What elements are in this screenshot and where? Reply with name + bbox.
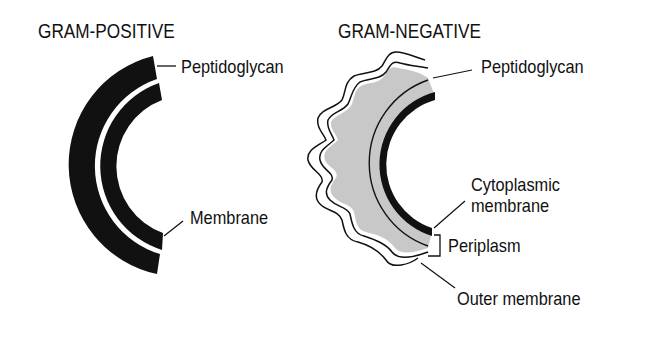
gram-negative-outer-membrane-leader bbox=[421, 263, 455, 288]
gram-positive-membrane-leader bbox=[164, 221, 183, 236]
periplasm-label: Periplasm bbox=[448, 236, 521, 256]
outer-membrane-label: Outer membrane bbox=[457, 289, 581, 309]
cytoplasmic-membrane-label-line1: Cytoplasmic bbox=[471, 175, 560, 195]
gram-negative-peptidoglycan-leader bbox=[433, 70, 472, 78]
gram-negative-title: GRAM-NEGATIVE bbox=[338, 20, 481, 43]
cytoplasmic-membrane-label-line2: membrane bbox=[471, 196, 549, 216]
gram-positive-membrane-label: Membrane bbox=[190, 208, 268, 228]
gram-negative-peptidoglycan-label: Peptidoglycan bbox=[481, 57, 584, 77]
gram-positive-diagram bbox=[69, 56, 183, 274]
gram-positive-title: GRAM-POSITIVE bbox=[38, 20, 175, 43]
gram-positive-peptidoglycan-label: Peptidoglycan bbox=[181, 57, 284, 77]
gram-negative-cytoplasmic-leader bbox=[434, 201, 465, 228]
